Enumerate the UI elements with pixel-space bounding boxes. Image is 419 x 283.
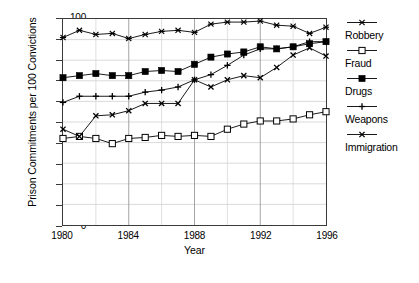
legend-entry-fraud[interactable]: Fraud (345, 44, 419, 70)
legend-label: Fraud (345, 57, 419, 70)
series-robbery (60, 18, 329, 41)
plus-icon (345, 100, 379, 113)
cross-icon (345, 128, 379, 141)
legend-entry-weapons[interactable]: Weapons (345, 100, 419, 126)
y-tick-mark (56, 226, 62, 227)
x-axis-title: Year (62, 244, 327, 256)
series-drugs (60, 39, 329, 81)
filled-square-icon (345, 72, 379, 85)
chart-legend: RobberyFraudDrugsWeaponsImmigration (345, 16, 419, 156)
legend-entry-immigration[interactable]: Immigration (345, 128, 419, 154)
series-weapons (60, 38, 329, 105)
open-square-icon (345, 44, 379, 57)
chart-figure: Prison Commitments per 100 Convictions Y… (0, 0, 419, 283)
legend-entry-robbery[interactable]: Robbery (345, 16, 419, 42)
legend-entry-drugs[interactable]: Drugs (345, 72, 419, 98)
series-fraud (60, 109, 329, 147)
x-tick-label: 1996 (307, 230, 347, 241)
data-series-layer (63, 19, 326, 225)
x-tick-label: 1984 (108, 230, 148, 241)
legend-label: Immigration (345, 141, 419, 154)
plot-area (62, 18, 327, 226)
legend-label: Drugs (345, 85, 419, 98)
legend-label: Robbery (345, 29, 419, 42)
x-tick-label: 1988 (175, 230, 215, 241)
x-tick-label: 1992 (241, 230, 281, 241)
x-tick-label: 1980 (42, 230, 82, 241)
y-axis-title: Prison Commitments per 100 Convictions (26, 2, 38, 222)
asterisk-icon (345, 16, 379, 29)
series-immigration (60, 45, 328, 139)
legend-label: Weapons (345, 113, 419, 126)
